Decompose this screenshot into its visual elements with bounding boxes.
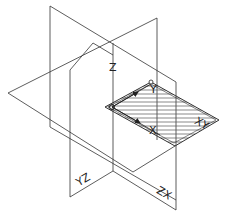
z-axis-label: Z (109, 61, 117, 74)
zx-plane-label: ZX (154, 184, 174, 203)
coordinate-planes-diagram: Z Y X XY YZ ZX (0, 0, 228, 215)
x-axis-label: X (149, 124, 157, 137)
yz-plane-label: YZ (73, 170, 93, 189)
y-axis-label: Y (149, 83, 157, 96)
